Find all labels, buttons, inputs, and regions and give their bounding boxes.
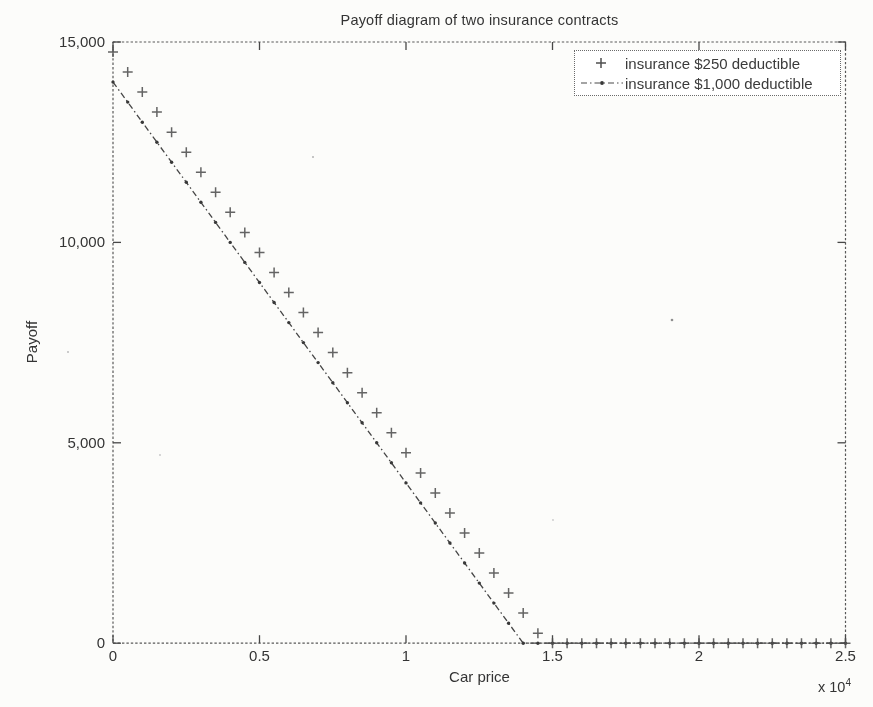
series-1000-deductible-marker bbox=[448, 541, 451, 544]
chart-title: Payoff diagram of two insurance contract… bbox=[113, 12, 846, 28]
y-tick-label: 5,000 bbox=[67, 434, 105, 451]
x-axis-label: Car price bbox=[113, 668, 846, 685]
chart-canvas: 00.511.522.505,00010,00015,000 bbox=[0, 0, 873, 707]
series-1000-deductible-marker bbox=[302, 341, 305, 344]
series-1000-deductible-marker bbox=[229, 241, 232, 244]
multiplier-exponent: 4 bbox=[845, 677, 851, 688]
payoff-figure: 00.511.522.505,00010,00015,000 Payoff di… bbox=[0, 0, 873, 707]
legend-item-label: insurance $250 deductible bbox=[625, 55, 800, 72]
series-1000-deductible-marker bbox=[360, 421, 363, 424]
x-tick-label: 2.5 bbox=[835, 647, 856, 664]
legend-item: insurance $1,000 deductible bbox=[579, 74, 836, 92]
series-1000-deductible-marker bbox=[272, 301, 275, 304]
series-1000-deductible-marker bbox=[478, 581, 481, 584]
series-1000-deductible-marker bbox=[141, 121, 144, 124]
dashdot-line-icon bbox=[579, 75, 625, 91]
series-1000-deductible-marker bbox=[375, 441, 378, 444]
x-tick-label: 1 bbox=[402, 647, 410, 664]
series-1000-deductible-marker bbox=[522, 642, 525, 645]
series-1000-deductible-marker bbox=[258, 281, 261, 284]
y-tick-label: 15,000 bbox=[59, 33, 105, 50]
series-1000-deductible-marker bbox=[331, 381, 334, 384]
legend: insurance $250 deductibleinsurance $1,00… bbox=[574, 50, 841, 96]
legend-item: insurance $250 deductible bbox=[579, 54, 836, 72]
series-1000-deductible-marker bbox=[419, 501, 422, 504]
series-1000-deductible-marker bbox=[126, 100, 129, 103]
x-tick-label: 0 bbox=[109, 647, 117, 664]
scan-speckle bbox=[67, 351, 69, 353]
x-axis-multiplier: x 104 bbox=[793, 677, 851, 695]
series-1000-deductible-marker bbox=[507, 622, 510, 625]
scan-speckle bbox=[671, 319, 674, 322]
plus-marker-icon bbox=[579, 55, 625, 71]
x-tick-label: 2 bbox=[695, 647, 703, 664]
multiplier-base: x 10 bbox=[818, 679, 845, 695]
series-250-deductible-markers bbox=[108, 47, 851, 648]
x-tick-label: 0.5 bbox=[249, 647, 270, 664]
series-1000-deductible-marker bbox=[536, 642, 539, 645]
y-tick-label: 10,000 bbox=[59, 233, 105, 250]
x-tick-label: 1.5 bbox=[542, 647, 563, 664]
series-1000-deductible-marker bbox=[214, 221, 217, 224]
series-1000-deductible-marker bbox=[404, 481, 407, 484]
series-1000-deductible-marker bbox=[170, 161, 173, 164]
series-1000-deductible-marker bbox=[111, 80, 114, 83]
series-1000-deductible-marker bbox=[155, 141, 158, 144]
series-1000-deductible-line bbox=[113, 82, 846, 643]
series-1000-deductible-marker bbox=[463, 561, 466, 564]
scan-speckle bbox=[312, 156, 314, 158]
series-1000-deductible-marker bbox=[243, 261, 246, 264]
y-axis-label: Payoff bbox=[23, 321, 40, 363]
series-1000-deductible-marker bbox=[287, 321, 290, 324]
series-1000-deductible-marker bbox=[316, 361, 319, 364]
y-tick-label: 0 bbox=[97, 634, 105, 651]
series-1000-deductible-marker bbox=[185, 181, 188, 184]
series-1000-deductible-marker bbox=[492, 601, 495, 604]
legend-item-label: insurance $1,000 deductible bbox=[625, 75, 813, 92]
series-1000-deductible-marker bbox=[390, 461, 393, 464]
series-1000-deductible-marker bbox=[199, 201, 202, 204]
scan-speckle bbox=[159, 454, 161, 456]
scan-speckle bbox=[552, 519, 554, 521]
series-1000-deductible-marker bbox=[434, 521, 437, 524]
series-1000-deductible-marker bbox=[346, 401, 349, 404]
